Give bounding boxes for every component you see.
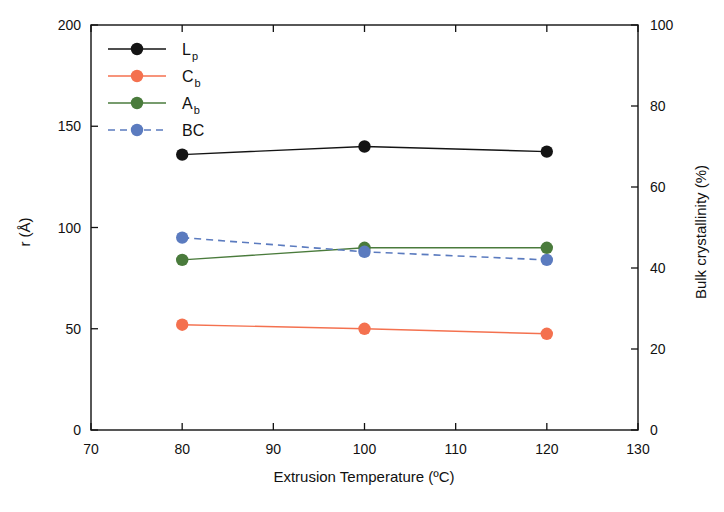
data-point-BC xyxy=(541,254,553,266)
y-tick-label: 50 xyxy=(65,321,81,337)
legend-marker-Ab xyxy=(131,97,143,109)
y-axis-title: r (Å) xyxy=(16,217,33,246)
data-point-BC xyxy=(358,246,370,258)
legend-marker-Lp xyxy=(131,43,143,55)
x-tick-label: 120 xyxy=(535,441,559,457)
x-tick-label: 90 xyxy=(266,441,282,457)
data-point-Ab xyxy=(541,242,553,254)
y2-tick-label: 40 xyxy=(650,260,666,276)
data-point-Lp xyxy=(358,140,370,152)
y2-tick-label: 20 xyxy=(650,341,666,357)
data-point-Cb xyxy=(358,323,370,335)
y2-axis-title: Bulk crystallinity (%) xyxy=(692,165,709,299)
y2-tick-label: 0 xyxy=(650,422,658,438)
legend-marker-BC xyxy=(131,124,143,136)
y-tick-label: 100 xyxy=(58,220,82,236)
data-point-Ab xyxy=(176,254,188,266)
data-point-BC xyxy=(176,231,188,243)
x-axis-title: Extrusion Temperature (ºC) xyxy=(273,468,454,485)
line-chart: 708090100110120130 050100150200 02040608… xyxy=(0,0,724,512)
y2-tick-label: 80 xyxy=(650,98,666,114)
x-tick-label: 80 xyxy=(174,441,190,457)
data-point-Lp xyxy=(541,145,553,157)
y-tick-label: 150 xyxy=(58,118,82,134)
legend-marker-Cb xyxy=(131,70,143,82)
chart-figure: 708090100110120130 050100150200 02040608… xyxy=(0,0,724,512)
data-point-Cb xyxy=(176,319,188,331)
x-tick-label: 110 xyxy=(445,441,468,457)
x-tick-label: 70 xyxy=(83,441,99,457)
data-point-Lp xyxy=(176,148,188,160)
y-tick-label: 200 xyxy=(58,17,82,33)
x-tick-label: 130 xyxy=(626,441,650,457)
y2-tick-label: 60 xyxy=(650,179,666,195)
legend-label-BC: BC xyxy=(182,122,204,139)
data-point-Cb xyxy=(541,328,553,340)
y-tick-label: 0 xyxy=(73,422,81,438)
y2-tick-label: 100 xyxy=(650,17,674,33)
x-tick-label: 100 xyxy=(353,441,377,457)
